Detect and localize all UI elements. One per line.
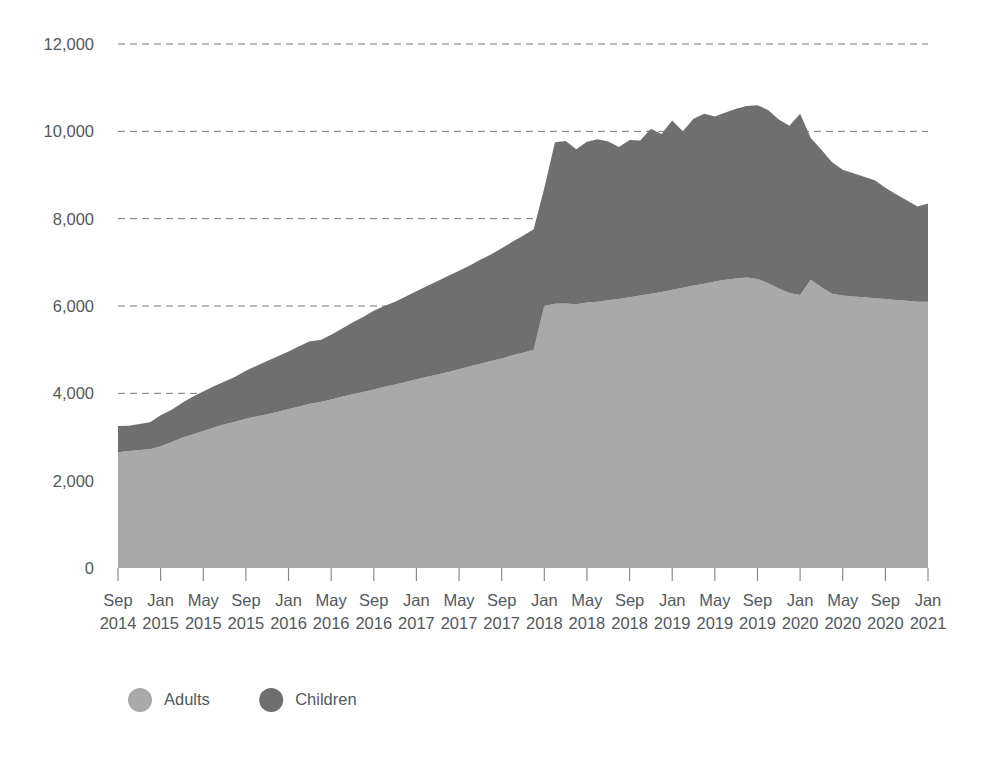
x-axis: [118, 568, 928, 581]
stacked-area-chart: 02,0004,0006,0008,00010,00012,000 Sep201…: [0, 0, 990, 763]
x-tick-label-month: Sep: [231, 591, 260, 609]
x-tick-label-month: Jan: [147, 591, 174, 609]
x-tick-label-month: Jan: [915, 591, 942, 609]
y-tick-label: 4,000: [53, 384, 94, 402]
x-tick-label-year: 2016: [270, 614, 307, 632]
x-tick-label-year: 2019: [654, 614, 691, 632]
x-tick-label-month: Jan: [403, 591, 430, 609]
x-tick-label-year: 2019: [696, 614, 733, 632]
legend-label-children[interactable]: Children: [295, 690, 356, 708]
x-tick-label-month: Sep: [487, 591, 516, 609]
x-tick-label-month: Jan: [787, 591, 814, 609]
x-tick-label-month: May: [316, 591, 348, 609]
legend-swatch-adults[interactable]: [128, 688, 152, 712]
x-tick-label-year: 2018: [569, 614, 606, 632]
x-tick-label-month: May: [443, 591, 475, 609]
legend-label-adults[interactable]: Adults: [164, 690, 210, 708]
x-tick-label-month: May: [827, 591, 859, 609]
x-tick-label-month: May: [699, 591, 731, 609]
x-tick-label-year: 2017: [483, 614, 520, 632]
y-tick-label: 2,000: [53, 472, 94, 490]
x-tick-label-year: 2017: [398, 614, 435, 632]
x-tick-label-year: 2020: [824, 614, 861, 632]
x-tick-label-year: 2014: [100, 614, 137, 632]
y-tick-label: 8,000: [53, 210, 94, 228]
x-tick-label-year: 2016: [313, 614, 350, 632]
x-tick-label-month: May: [571, 591, 603, 609]
x-tick-label-year: 2019: [739, 614, 776, 632]
x-tick-label-month: Sep: [103, 591, 132, 609]
x-tick-label-month: Jan: [531, 591, 558, 609]
x-tick-label-year: 2020: [782, 614, 819, 632]
x-tick-label-year: 2016: [355, 614, 392, 632]
x-axis-tick-labels: Sep2014Jan2015May2015Sep2015Jan2016May20…: [100, 591, 947, 632]
y-tick-label: 10,000: [44, 122, 94, 140]
y-tick-label: 12,000: [44, 35, 94, 53]
x-tick-label-year: 2018: [611, 614, 648, 632]
y-axis-tick-labels: 02,0004,0006,0008,00010,00012,000: [44, 35, 94, 577]
x-tick-label-year: 2015: [228, 614, 265, 632]
x-tick-label-year: 2021: [910, 614, 947, 632]
x-tick-label-year: 2015: [142, 614, 179, 632]
x-tick-label-year: 2017: [441, 614, 478, 632]
y-tick-label: 6,000: [53, 297, 94, 315]
x-tick-label-month: Jan: [659, 591, 686, 609]
x-tick-label-month: Sep: [871, 591, 900, 609]
x-tick-label-year: 2020: [867, 614, 904, 632]
x-tick-label-year: 2015: [185, 614, 222, 632]
x-tick-label-year: 2018: [526, 614, 563, 632]
legend-swatch-children[interactable]: [259, 688, 283, 712]
chart-legend: AdultsChildren: [128, 688, 357, 712]
x-tick-label-month: May: [188, 591, 220, 609]
x-tick-label-month: Sep: [615, 591, 644, 609]
x-tick-label-month: Sep: [743, 591, 772, 609]
x-tick-label-month: Sep: [359, 591, 388, 609]
x-tick-label-month: Jan: [275, 591, 302, 609]
area-series-group: [118, 105, 928, 568]
y-tick-label: 0: [85, 559, 94, 577]
chart-canvas: 02,0004,0006,0008,00010,00012,000 Sep201…: [0, 0, 990, 763]
